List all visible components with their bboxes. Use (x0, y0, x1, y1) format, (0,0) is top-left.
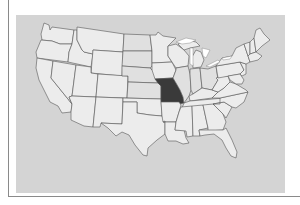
state-wy[interactable] (91, 50, 123, 76)
state-mt[interactable] (77, 27, 124, 54)
state-me[interactable] (254, 28, 270, 52)
state-az[interactable] (69, 96, 96, 127)
state-sd[interactable] (122, 51, 152, 68)
lake-huron (202, 48, 210, 58)
us-map (0, 0, 300, 205)
state-nm[interactable] (93, 97, 123, 127)
state-ks[interactable] (127, 82, 161, 99)
state-co[interactable] (96, 74, 128, 98)
state-ia[interactable] (152, 62, 176, 79)
state-nd[interactable] (123, 34, 152, 51)
state-mi[interactable] (192, 50, 204, 68)
lake-michigan (190, 48, 193, 66)
state-fl[interactable] (199, 128, 237, 158)
